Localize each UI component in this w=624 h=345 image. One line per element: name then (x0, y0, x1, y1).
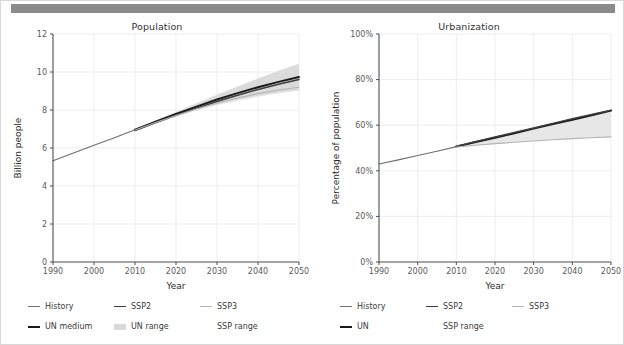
y-tick-label: 6 (42, 144, 47, 153)
legend-item[interactable]: SSP2 (426, 301, 512, 312)
legend-line-swatch (426, 306, 438, 307)
legend-label: SSP2 (443, 302, 463, 311)
legend-urbanization: HistorySSP2SSP3UNSSP range (313, 301, 624, 332)
legend-item[interactable]: SSP range (426, 321, 512, 332)
legend-label: History (45, 302, 73, 311)
toolbar-strip (11, 4, 615, 13)
legend-item[interactable]: SSP2 (114, 301, 200, 312)
legend-label: SSP range (443, 322, 484, 331)
legend-item[interactable]: SSP3 (512, 301, 598, 312)
y-axis-title: Billion people (13, 117, 23, 178)
legend-item[interactable]: History (28, 301, 114, 312)
plot-area-population: 1990200020102020203020402050024681012Yea… (1, 13, 313, 303)
legend-item[interactable]: UN (340, 321, 426, 332)
x-tick-label: 2040 (562, 267, 582, 276)
x-tick-label: 1990 (369, 267, 389, 276)
legend-item[interactable]: UN range (114, 321, 200, 332)
x-tick-label: 2050 (289, 267, 309, 276)
y-tick-label: 4 (42, 182, 47, 191)
x-axis-title: Year (484, 281, 504, 291)
legend-line-swatch (28, 326, 40, 328)
legend-population: HistorySSP2SSP3UN mediumUN rangeSSP rang… (1, 301, 313, 332)
x-tick-label: 2030 (523, 267, 543, 276)
legend-empty-swatch (200, 324, 212, 330)
x-tick-label: 2000 (84, 267, 104, 276)
legend-label: UN medium (45, 322, 92, 331)
y-tick-label: 60% (355, 121, 373, 130)
y-axis-title: Percentage of population (331, 92, 341, 205)
legend-line-swatch (512, 306, 524, 307)
legend-label: SSP3 (529, 302, 549, 311)
x-axis-title: Year (165, 281, 185, 291)
x-tick-label: 2010 (446, 267, 466, 276)
x-tick-label: 1990 (43, 267, 63, 276)
figure-frame: Population 19902000201020202030204020500… (0, 0, 624, 345)
legend-label: SSP range (217, 322, 258, 331)
y-tick-label: 80% (355, 75, 373, 84)
legend-line-swatch (28, 306, 40, 307)
legend-label: UN (357, 322, 369, 331)
legend-line-swatch (340, 326, 352, 328)
y-tick-label: 2 (42, 220, 47, 229)
legend-label: History (357, 302, 385, 311)
legend-empty-swatch (426, 324, 438, 330)
legend-label: SSP2 (131, 302, 151, 311)
legend-item[interactable]: History (340, 301, 426, 312)
y-tick-label: 10 (37, 68, 47, 77)
chart-panel-urbanization: Urbanization 199020002010202020302040205… (313, 13, 624, 345)
legend-line-swatch (340, 306, 352, 307)
legend-label: UN range (131, 322, 169, 331)
legend-item[interactable]: UN medium (28, 321, 114, 332)
y-tick-label: 0% (360, 258, 373, 267)
x-tick-label: 2040 (248, 267, 268, 276)
legend-band-swatch (114, 324, 126, 330)
y-tick-label: 20% (355, 212, 373, 221)
x-tick-label: 2010 (125, 267, 145, 276)
y-tick-label: 12 (37, 30, 47, 39)
x-tick-label: 2020 (485, 267, 505, 276)
legend-line-swatch (114, 306, 126, 307)
legend-item[interactable]: SSP range (200, 321, 286, 332)
legend-label: SSP3 (217, 302, 237, 311)
y-tick-label: 100% (350, 30, 373, 39)
x-tick-label: 2030 (207, 267, 227, 276)
y-tick-label: 0 (42, 258, 47, 267)
y-tick-label: 8 (42, 106, 47, 115)
y-tick-label: 40% (355, 167, 373, 176)
x-tick-label: 2050 (601, 267, 621, 276)
legend-line-swatch (200, 306, 212, 307)
chart-panel-population: Population 19902000201020202030204020500… (1, 13, 313, 345)
plot-area-urbanization: 19902000201020202030204020500%20%40%60%8… (313, 13, 624, 303)
x-tick-label: 2000 (407, 267, 427, 276)
legend-item[interactable]: SSP3 (200, 301, 286, 312)
x-tick-label: 2020 (166, 267, 186, 276)
